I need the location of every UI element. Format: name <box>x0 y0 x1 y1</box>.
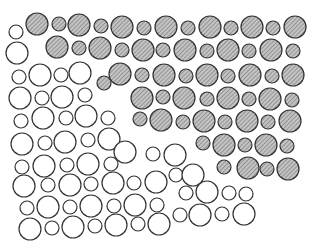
hatched-circle <box>213 134 235 156</box>
outline-circle <box>107 199 121 213</box>
hatched-circle <box>131 87 153 109</box>
hatched-circle <box>174 39 196 61</box>
outline-circle <box>196 181 218 203</box>
hatched-circle <box>89 37 111 59</box>
hatched-circle <box>115 43 129 57</box>
hatched-circle <box>150 109 172 131</box>
hatched-circle <box>153 64 175 86</box>
outline-circle <box>114 141 136 163</box>
outline-circle <box>233 203 255 225</box>
outline-circle <box>37 196 59 218</box>
hatched-circle <box>52 17 66 31</box>
hatched-circle <box>266 21 280 35</box>
outline-circle <box>150 198 164 212</box>
outline-circle <box>84 177 98 191</box>
hatched-circle <box>260 39 282 61</box>
hatched-circle <box>237 157 259 179</box>
hatched-circle <box>200 44 214 58</box>
outline-circle <box>77 153 99 175</box>
outline-circle <box>32 107 54 129</box>
outline-circle <box>78 88 92 102</box>
hatched-circle <box>218 115 232 129</box>
outline-circle <box>75 105 97 127</box>
hatched-circle <box>196 136 210 150</box>
hatched-circle <box>135 68 149 82</box>
outline-circle <box>29 64 51 86</box>
outline-circle <box>38 136 52 150</box>
hatched-circle <box>133 112 147 126</box>
outline-circle <box>102 172 124 194</box>
outline-circle <box>20 201 34 215</box>
outline-circle <box>80 195 102 217</box>
hatched-circle <box>217 160 231 174</box>
outline-circle <box>60 158 74 172</box>
hatched-circle <box>217 39 239 61</box>
hatched-circle <box>277 158 299 180</box>
outline-circle <box>189 204 211 226</box>
outline-circle <box>59 174 81 196</box>
hatched-circle <box>200 92 214 106</box>
outline-circle <box>6 42 28 64</box>
hatched-circle <box>111 16 133 38</box>
hatched-circle <box>285 93 299 107</box>
hatched-circle <box>260 162 274 176</box>
outline-circle <box>9 87 31 109</box>
outline-circle <box>239 187 253 201</box>
hatched-circle <box>199 16 221 38</box>
outline-circle <box>12 70 26 84</box>
outline-circle <box>81 133 95 147</box>
hatched-circle <box>132 39 154 61</box>
hatched-circle <box>193 110 215 132</box>
outline-circle <box>179 186 193 200</box>
outline-circle <box>88 219 102 233</box>
hatched-circle <box>46 36 68 58</box>
hatched-circle <box>94 19 108 33</box>
outline-circle <box>148 213 170 235</box>
hatched-circle <box>255 134 277 156</box>
hatched-circle <box>217 87 239 109</box>
hatched-circle <box>155 16 177 38</box>
outline-circle <box>11 133 33 155</box>
hatched-circle <box>68 14 90 36</box>
outline-circle <box>215 207 229 221</box>
outline-circle <box>59 111 73 125</box>
outline-circle <box>173 208 187 222</box>
outline-circle <box>35 91 49 105</box>
hatched-circle <box>26 13 48 35</box>
outline-circle <box>15 160 29 174</box>
hatched-circle <box>224 21 238 35</box>
hatched-circle <box>280 139 294 153</box>
outline-circle <box>69 62 91 84</box>
outline-circle <box>124 194 146 216</box>
hatched-circle <box>238 138 252 152</box>
outline-circle <box>51 86 73 108</box>
hatched-circle <box>259 88 281 110</box>
hatched-circle <box>97 76 111 90</box>
outline-circle <box>62 216 84 238</box>
hatched-circle <box>109 63 131 85</box>
hatched-circle <box>241 16 263 38</box>
hatched-circle <box>137 21 151 35</box>
outline-circle <box>127 176 141 190</box>
circle-group <box>6 13 306 240</box>
outline-circle <box>9 25 23 39</box>
hatched-circle <box>156 90 170 104</box>
outline-circle <box>54 131 76 153</box>
outline-circle <box>45 221 59 235</box>
hatched-circle <box>176 115 190 129</box>
outline-circle <box>41 178 55 192</box>
outline-circle <box>33 155 55 177</box>
outline-circle <box>169 168 183 182</box>
outline-circle <box>19 218 41 240</box>
outline-circle <box>54 68 68 82</box>
outline-circle <box>105 214 127 236</box>
hatched-circle <box>286 44 300 58</box>
outline-circle <box>222 186 236 200</box>
hatched-circle <box>236 110 258 132</box>
hatched-circle <box>265 69 279 83</box>
outline-circle <box>14 114 28 128</box>
hatched-circle <box>284 16 306 38</box>
hatched-circle <box>261 115 275 129</box>
hatched-circle <box>173 87 195 109</box>
outline-circle <box>13 175 35 197</box>
